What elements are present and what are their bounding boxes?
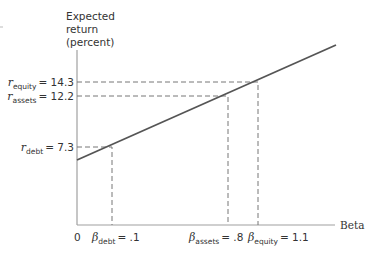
y-axis-title-line2: return xyxy=(66,23,98,35)
security-market-line xyxy=(77,45,336,160)
x-axis-title: Beta xyxy=(340,219,364,231)
guide-lines xyxy=(77,82,258,225)
y-axis-title-line3: (percent) xyxy=(66,36,114,48)
r-equity-label: requity= 14.3 xyxy=(8,76,74,91)
beta-debt-label: βdebt= .1 xyxy=(91,231,140,246)
r-debt-label: rdebt= 7.3 xyxy=(21,141,74,156)
y-axis-title-line1: Expected xyxy=(66,10,115,22)
equity-guide xyxy=(77,82,258,225)
beta-equity-label: βequity= 1.1 xyxy=(247,231,309,246)
beta-assets-label: βassets= .8 xyxy=(188,231,243,246)
chart-canvas: Expected return (percent) requity= 14.3 … xyxy=(0,0,371,254)
debt-guide xyxy=(77,147,112,225)
origin-label: 0 xyxy=(74,231,81,243)
assets-guide xyxy=(77,96,228,225)
r-assets-label: rassets= 12.2 xyxy=(7,90,74,105)
